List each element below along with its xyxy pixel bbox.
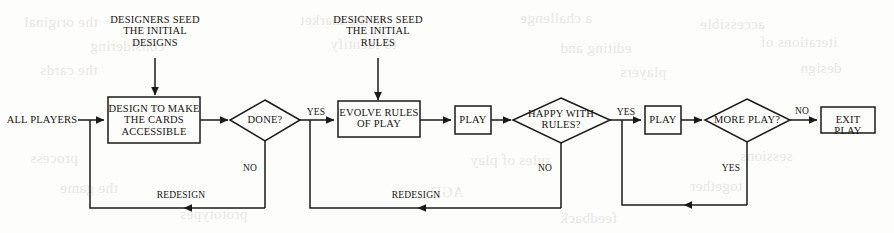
node-label-play-1: PLAY <box>455 114 491 125</box>
edge-label-redesign-1: REDESIGN <box>150 190 212 200</box>
node-label-done: DONE? <box>235 114 295 125</box>
edge-label-more-play-no: NO <box>790 106 814 116</box>
edge-label-happy-no: NO <box>533 163 557 173</box>
caption-seed-rules: DESIGNERS SEED THE INITIAL RULES <box>327 14 429 48</box>
flowchart-figure: the originalin the marketa challengeacce… <box>0 0 894 233</box>
node-label-more-play: MORE PLAY? <box>708 114 786 125</box>
edge-label-happy-yes: YES <box>610 107 642 117</box>
edge-label-done-yes: YES <box>300 107 332 117</box>
node-label-exit-play: EXIT PLAY <box>821 114 875 137</box>
terminal-all-players: ALL PLAYERS <box>6 114 78 125</box>
node-label-design-cards: DESIGN TO MAKE THE CARDS ACCESSIBLE <box>108 103 200 137</box>
edge-label-redesign-2: REDESIGN <box>385 190 447 200</box>
edge-label-done-no: NO <box>238 163 262 173</box>
node-label-happy-with-rules: HAPPY WITH RULES? <box>518 108 604 131</box>
node-label-play-2: PLAY <box>645 114 681 125</box>
caption-seed-designs: DESIGNERS SEED THE INITIAL DESIGNS <box>104 14 206 48</box>
edge-label-more-play-yes: YES <box>718 163 744 173</box>
node-label-evolve-rules: EVOLVE RULES OF PLAY <box>338 107 420 130</box>
